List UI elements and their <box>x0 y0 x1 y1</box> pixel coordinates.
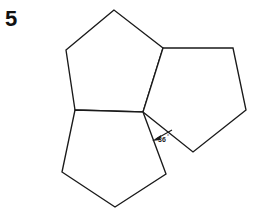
gap-angle-degree-symbol: ° <box>167 133 169 139</box>
pentagons-diagram: 36 ° <box>0 0 259 222</box>
geometry-figure: 5 36 ° <box>0 0 259 222</box>
gap-angle-value: 36 <box>158 136 166 143</box>
pentagon-bottom <box>62 110 166 207</box>
